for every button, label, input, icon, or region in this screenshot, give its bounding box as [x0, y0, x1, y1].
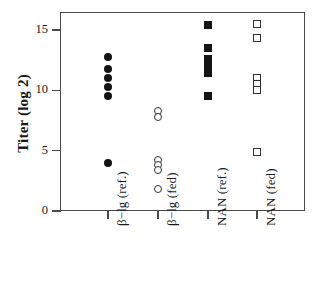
y-axis-tick	[52, 90, 61, 91]
data-point	[104, 65, 112, 73]
data-point	[104, 83, 112, 91]
data-point	[204, 69, 212, 77]
y-axis-tick-label: 0	[8, 204, 48, 217]
y-axis-tick	[52, 29, 61, 30]
data-point	[154, 113, 162, 121]
data-point	[253, 148, 261, 156]
y-axis-tick-label: 15	[8, 23, 48, 36]
y-axis-tick-label: 5	[8, 144, 48, 157]
data-point	[204, 92, 212, 100]
x-axis-tick-label: β−lg (fed)	[164, 106, 180, 226]
x-axis-tick	[256, 211, 257, 219]
data-point	[154, 166, 162, 174]
data-point	[104, 159, 112, 167]
x-axis-tick-label: NAN (fed)	[263, 106, 279, 226]
y-axis-title: Titer (log 2)	[15, 44, 32, 184]
data-point	[253, 86, 261, 94]
x-axis-tick-label: β−lg (ref.)	[114, 106, 130, 226]
y-axis-tick	[52, 210, 61, 211]
x-axis-tick	[107, 211, 108, 219]
x-axis-tick	[207, 211, 208, 219]
y-axis-tick-label: 10	[8, 83, 48, 96]
x-axis-tick	[157, 211, 158, 219]
scatter-plot-figure: Titer (log 2) 051015 β−lg (ref.)β−lg (fe…	[0, 0, 316, 307]
data-point	[253, 34, 261, 42]
data-point	[253, 20, 261, 28]
data-point	[204, 44, 212, 52]
data-point	[104, 53, 112, 61]
y-axis-tick	[52, 150, 61, 151]
x-axis-tick-label: NAN (ref.)	[214, 106, 230, 226]
data-point	[204, 21, 212, 29]
